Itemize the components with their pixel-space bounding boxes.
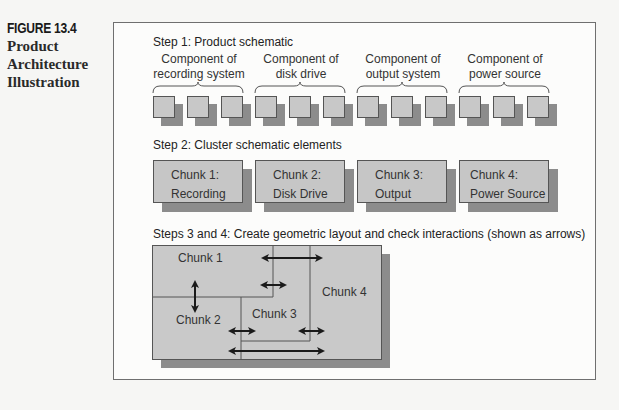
component-square bbox=[493, 96, 515, 118]
brace-icon bbox=[459, 82, 549, 93]
component-square bbox=[459, 96, 481, 118]
component-square bbox=[527, 96, 549, 118]
layout-label-chunk2: Chunk 2 bbox=[176, 313, 221, 327]
step34-heading: Steps 3 and 4: Create geometric layout a… bbox=[153, 227, 585, 241]
label-line: recording system bbox=[153, 67, 245, 82]
component-square bbox=[221, 96, 243, 118]
layout-label-chunk4: Chunk 4 bbox=[322, 285, 367, 299]
layout-label-chunk3: Chunk 3 bbox=[252, 307, 297, 321]
component-square bbox=[255, 96, 277, 118]
component-group-label: Component of disk drive bbox=[255, 52, 347, 82]
step2-heading: Step 2: Cluster schematic elements bbox=[153, 138, 342, 152]
chunk-name: Power Source bbox=[470, 185, 548, 204]
figure-frame: Step 1: Product schematic Component of r… bbox=[113, 22, 596, 380]
chunk-name: Output bbox=[375, 185, 446, 204]
label-line: Component of bbox=[153, 52, 245, 67]
figure-title: Product Architecture Illustration bbox=[7, 37, 107, 91]
brace-icon bbox=[255, 82, 345, 93]
component-group-label: Component of recording system bbox=[153, 52, 245, 82]
component-square bbox=[357, 96, 379, 118]
chunk-number: Chunk 3: bbox=[375, 166, 446, 185]
component-square bbox=[187, 96, 209, 118]
chunk-number: Chunk 1: bbox=[171, 166, 242, 185]
figure-caption: FIGURE 13.4 Product Architecture Illustr… bbox=[7, 20, 107, 91]
component-square bbox=[153, 96, 175, 118]
label-line: Component of bbox=[357, 52, 449, 67]
chunk-box-output: Chunk 3: Output bbox=[357, 160, 447, 203]
component-group-label: Component of power source bbox=[459, 52, 551, 82]
component-square bbox=[323, 96, 345, 118]
label-line: disk drive bbox=[255, 67, 347, 82]
chunk-name: Disk Drive bbox=[273, 185, 344, 204]
component-square bbox=[425, 96, 447, 118]
figure-title-line: Illustration bbox=[7, 73, 107, 91]
component-group-label: Component of output system bbox=[357, 52, 449, 82]
chunk-name: Recording bbox=[171, 185, 242, 204]
figure-number: FIGURE 13.4 bbox=[7, 20, 93, 36]
chunk-number: Chunk 4: bbox=[470, 166, 548, 185]
label-line: Component of bbox=[255, 52, 347, 67]
label-line: Component of bbox=[459, 52, 551, 67]
label-line: output system bbox=[357, 67, 449, 82]
component-square bbox=[391, 96, 413, 118]
figure-title-line: Architecture bbox=[7, 55, 107, 73]
brace-icon bbox=[357, 82, 447, 93]
component-square bbox=[289, 96, 311, 118]
chunk-box-power-source: Chunk 4: Power Source bbox=[459, 160, 549, 203]
label-line: power source bbox=[459, 67, 551, 82]
layout-label-chunk1: Chunk 1 bbox=[178, 251, 223, 265]
brace-icon bbox=[153, 82, 243, 93]
step1-heading: Step 1: Product schematic bbox=[153, 35, 293, 49]
brace-icons bbox=[152, 81, 572, 95]
chunk-box-recording: Chunk 1: Recording bbox=[153, 160, 243, 203]
figure-title-line: Product bbox=[7, 37, 107, 55]
chunk-number: Chunk 2: bbox=[273, 166, 344, 185]
chunk-box-disk-drive: Chunk 2: Disk Drive bbox=[255, 160, 345, 203]
